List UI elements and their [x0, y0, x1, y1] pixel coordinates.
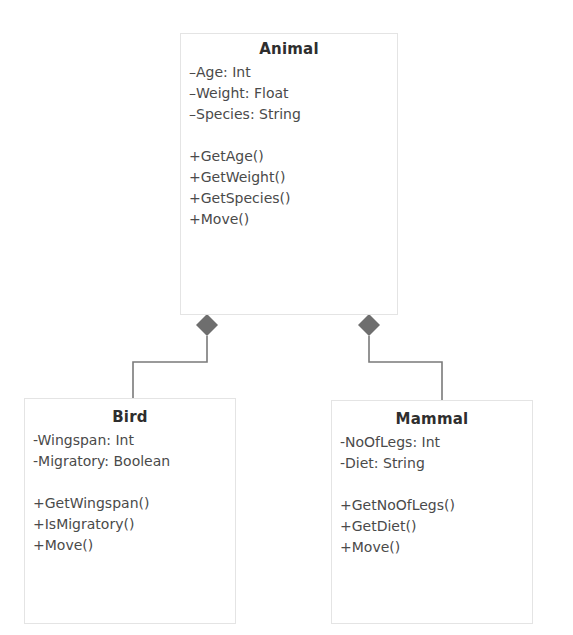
- attribute: -Diet: String: [340, 453, 532, 474]
- attribute: -Migratory: Boolean: [33, 451, 235, 472]
- class-box-animal: Animal –Age: Int –Weight: Float –Species…: [180, 33, 398, 315]
- connector-animal-mammal: [358, 314, 442, 400]
- operation: +GetNoOfLegs(): [340, 495, 532, 516]
- operation: +GetWeight(): [189, 167, 397, 188]
- composition-diamond-icon: [196, 314, 218, 336]
- attribute-list: -Wingspan: Int -Migratory: Boolean: [25, 430, 235, 472]
- operation: +IsMigratory(): [33, 514, 235, 535]
- operation: +Move(): [33, 535, 235, 556]
- attribute: -NoOfLegs: Int: [340, 432, 532, 453]
- operation: +Move(): [340, 537, 532, 558]
- class-name: Bird: [25, 408, 235, 428]
- class-box-mammal: Mammal -NoOfLegs: Int -Diet: String +Get…: [331, 400, 533, 624]
- connector-animal-bird: [133, 314, 218, 398]
- attribute: -Wingspan: Int: [33, 430, 235, 451]
- operation: +GetWingspan(): [33, 493, 235, 514]
- operation-list: +GetNoOfLegs() +GetDiet() +Move(): [332, 495, 532, 558]
- operation: +GetAge(): [189, 146, 397, 167]
- operation: +Move(): [189, 209, 397, 230]
- attribute-list: -NoOfLegs: Int -Diet: String: [332, 432, 532, 474]
- operation: +GetSpecies(): [189, 188, 397, 209]
- class-box-bird: Bird -Wingspan: Int -Migratory: Boolean …: [24, 398, 236, 624]
- attribute: –Species: String: [189, 104, 397, 125]
- class-name: Mammal: [332, 410, 532, 430]
- attribute: –Weight: Float: [189, 83, 397, 104]
- attribute: –Age: Int: [189, 62, 397, 83]
- operation: +GetDiet(): [340, 516, 532, 537]
- class-name: Animal: [181, 40, 397, 60]
- operation-list: +GetWingspan() +IsMigratory() +Move(): [25, 493, 235, 556]
- attribute-list: –Age: Int –Weight: Float –Species: Strin…: [181, 62, 397, 125]
- composition-diamond-icon: [358, 314, 380, 336]
- operation-list: +GetAge() +GetWeight() +GetSpecies() +Mo…: [181, 146, 397, 230]
